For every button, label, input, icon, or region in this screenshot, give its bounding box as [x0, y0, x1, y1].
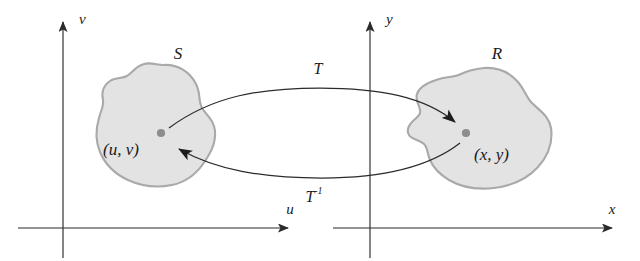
region-S-label: S [174, 44, 183, 63]
inverse-transform-superscript: -1 [314, 185, 322, 196]
xy-plane: y x R (x, y) [333, 11, 616, 258]
point-xy-dot [462, 129, 470, 137]
x-axis-label: x [608, 201, 616, 217]
region-R-label: R [491, 44, 503, 63]
forward-transform-symbol: T [314, 60, 324, 77]
v-axis-label: v [79, 11, 86, 27]
region-R-shape [408, 68, 552, 189]
forward-transform-label: T [314, 60, 324, 77]
point-uv-dot [157, 129, 165, 137]
point-uv-label: (u, v) [103, 140, 139, 159]
diagram-canvas: v u S (u, v) y x R (x, y) T [0, 0, 640, 261]
transformation-diagram: v u S (u, v) y x R (x, y) T [0, 0, 640, 261]
region-S-shape [97, 63, 216, 186]
y-axis-label: y [384, 11, 393, 27]
u-axis-label: u [286, 201, 294, 217]
inverse-transform-label: T-1 [305, 185, 322, 204]
point-xy-label: (x, y) [474, 145, 509, 164]
uv-plane: v u S (u, v) [18, 11, 294, 258]
inverse-transform-arrow [179, 143, 460, 178]
